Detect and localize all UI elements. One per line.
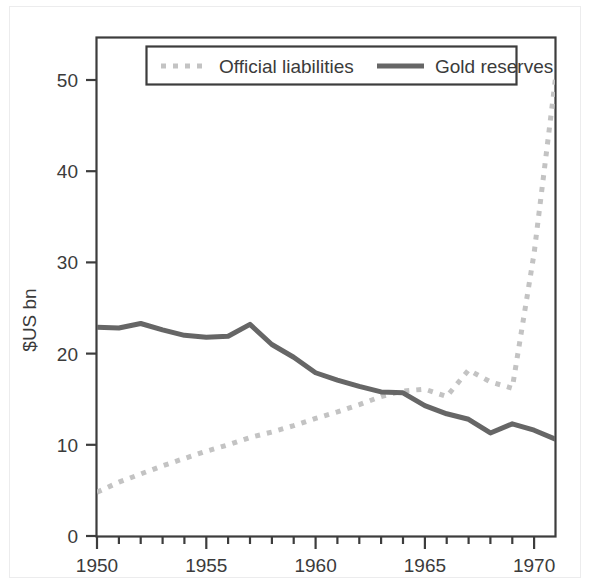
legend-label-official-liabilities: Official liabilities [219,56,354,77]
x-axis-ticks [97,536,534,549]
y-tick-label-0: 0 [67,526,78,547]
y-axis-ticks [86,80,96,536]
legend-label-gold-reserves: Gold reserves [435,56,553,77]
legend: Official liabilities Gold reserves [147,47,554,85]
y-tick-label-50: 50 [57,70,78,91]
x-tick-label-1965: 1965 [404,555,446,576]
y-tick-label-10: 10 [57,435,78,456]
x-tick-label-1960: 1960 [294,555,336,576]
plot-frame [97,38,556,537]
x-tick-label-1955: 1955 [185,555,227,576]
chart-page: 0 10 20 30 40 50 $US bn [0,0,591,585]
line-chart-figure: 0 10 20 30 40 50 $US bn [0,0,591,585]
chart-canvas: 0 10 20 30 40 50 $US bn [0,0,591,585]
y-tick-label-30: 30 [57,252,78,273]
y-axis-title: $US bn [19,288,40,351]
x-tick-label-1970: 1970 [513,555,555,576]
y-tick-label-20: 20 [57,344,78,365]
y-tick-label-40: 40 [57,161,78,182]
x-tick-label-1950: 1950 [76,555,118,576]
